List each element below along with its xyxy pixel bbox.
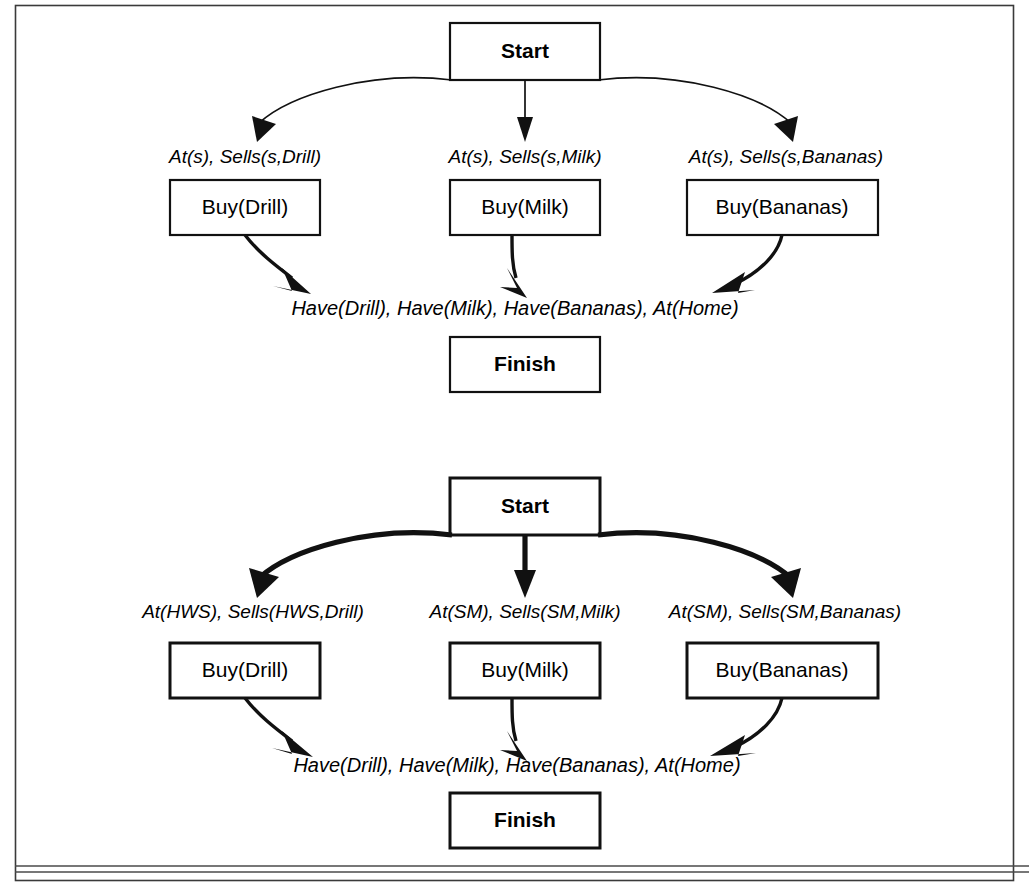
page-frame-border bbox=[16, 6, 1014, 881]
arrowhead-icon bbox=[252, 116, 276, 142]
edge-drill-to-goal bbox=[245, 698, 313, 757]
finish-node-abstract[interactable]: Finish bbox=[450, 337, 600, 392]
edge-start-to-drill bbox=[249, 533, 452, 598]
edge-start-to-milk bbox=[517, 80, 533, 142]
action-node-buy-milk[interactable]: Buy(Milk) bbox=[450, 180, 600, 235]
edge-line bbox=[512, 235, 516, 278]
arrowhead-icon bbox=[272, 731, 313, 757]
edge-line bbox=[259, 533, 452, 578]
arrowhead-icon bbox=[774, 116, 798, 142]
precondition-bananas: At(s), Sells(s,Bananas) bbox=[688, 146, 883, 167]
action-node-buy-bananas[interactable]: Buy(Bananas) bbox=[687, 180, 878, 235]
edge-start-to-bananas bbox=[598, 78, 798, 142]
goal-condition: Have(Drill), Have(Milk), Have(Bananas), … bbox=[291, 297, 738, 319]
edge-milk-to-goal bbox=[500, 698, 527, 761]
arrowhead-icon bbox=[771, 568, 801, 598]
finish-label: Finish bbox=[494, 352, 556, 375]
action-label: Buy(Milk) bbox=[481, 195, 569, 218]
edge-bananas-to-goal bbox=[710, 698, 782, 756]
action-label: Buy(Drill) bbox=[202, 658, 288, 681]
edge-line bbox=[259, 78, 452, 123]
action-label: Buy(Milk) bbox=[481, 658, 569, 681]
edge-start-to-milk bbox=[514, 535, 536, 598]
action-node-buy-bananas[interactable]: Buy(Bananas) bbox=[687, 643, 878, 698]
action-label: Buy(Bananas) bbox=[715, 195, 848, 218]
precondition-milk: At(s), Sells(s,Milk) bbox=[447, 146, 601, 167]
edge-drill-to-goal bbox=[245, 235, 311, 294]
edge-line bbox=[512, 698, 516, 741]
edge-line bbox=[598, 78, 791, 123]
action-label: Buy(Drill) bbox=[202, 195, 288, 218]
finish-node-instantiated[interactable]: Finish bbox=[450, 793, 600, 848]
precondition-drill: At(s), Sells(s,Drill) bbox=[168, 146, 321, 167]
precondition-drill: At(HWS), Sells(HWS,Drill) bbox=[141, 601, 364, 622]
arrowhead-icon bbox=[514, 570, 536, 598]
action-label: Buy(Bananas) bbox=[715, 658, 848, 681]
start-label: Start bbox=[501, 494, 549, 517]
arrowhead-icon bbox=[273, 268, 311, 294]
action-node-buy-drill[interactable]: Buy(Drill) bbox=[170, 643, 320, 698]
start-label: Start bbox=[501, 39, 549, 62]
finish-label: Finish bbox=[494, 808, 556, 831]
arrowhead-icon bbox=[517, 117, 533, 142]
goal-condition: Have(Drill), Have(Milk), Have(Bananas), … bbox=[293, 754, 740, 776]
edge-bananas-to-goal bbox=[712, 235, 782, 293]
start-node-abstract[interactable]: Start bbox=[450, 23, 600, 80]
edge-milk-to-goal bbox=[500, 235, 527, 298]
plan-instantiated: Start At(HWS), Sells(HWS,Drill) At(SM), … bbox=[141, 478, 901, 848]
start-node-instantiated[interactable]: Start bbox=[450, 478, 600, 535]
edge-start-to-bananas bbox=[598, 533, 801, 598]
precondition-milk: At(SM), Sells(SM,Milk) bbox=[428, 601, 620, 622]
action-node-buy-milk[interactable]: Buy(Milk) bbox=[450, 643, 600, 698]
edge-start-to-drill bbox=[252, 78, 452, 142]
action-node-buy-drill[interactable]: Buy(Drill) bbox=[170, 180, 320, 235]
edge-line bbox=[598, 533, 791, 578]
arrowhead-icon bbox=[249, 568, 279, 598]
plan-diagram-canvas: Start At(s), Sells(s,Drill) At(s), Sells… bbox=[0, 0, 1029, 887]
plan-abstract: Start At(s), Sells(s,Drill) At(s), Sells… bbox=[168, 23, 883, 392]
precondition-bananas: At(SM), Sells(SM,Bananas) bbox=[668, 601, 901, 622]
figure-container: Start At(s), Sells(s,Drill) At(s), Sells… bbox=[0, 0, 1029, 887]
